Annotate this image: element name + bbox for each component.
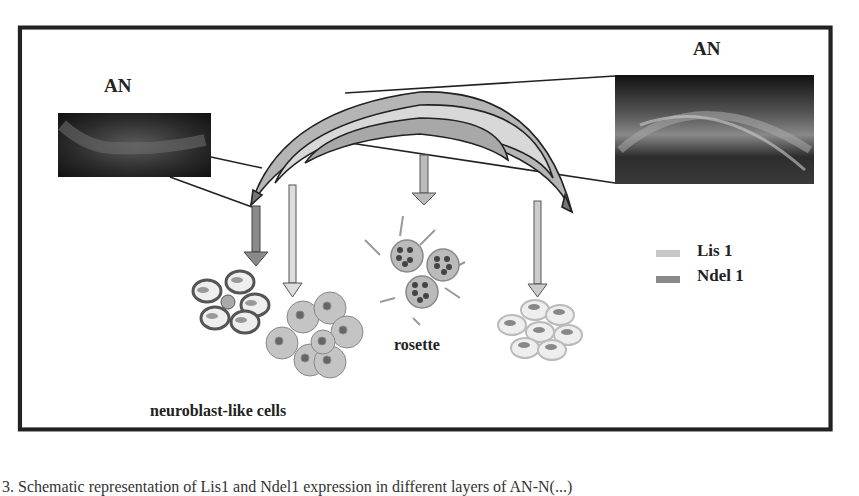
arrow-right [528,201,547,297]
label-rosette: rosette [394,336,440,354]
legend-swatch-lis1 [656,250,680,257]
right-micrograph [615,75,814,184]
legend-label-ndel1: Ndel 1 [697,266,744,286]
cell-cluster-lis1 [498,300,582,360]
cell-cluster-ndel1 [193,271,269,333]
figure-caption: 3. Schematic representation of Lis1 and … [2,478,572,496]
label-an-right: AN [693,38,720,60]
arrow-center [412,155,436,205]
cell-cluster-neuroblast [266,292,363,378]
legend-swatch-ndel1 [656,276,680,283]
rosette-cells [365,216,465,325]
connector-lines [170,76,615,207]
label-an-left: AN [104,75,131,97]
left-micrograph [58,113,211,177]
label-neuroblast: neuroblast-like cells [150,402,286,420]
arrow-lis1-left [283,185,302,297]
arrow-ndel1-left [244,206,268,266]
legend-label-lis1: Lis 1 [697,241,732,261]
